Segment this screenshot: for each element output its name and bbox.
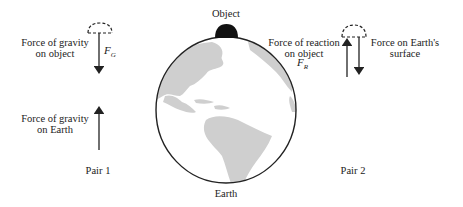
reaction-on-object-line1: Force of reaction xyxy=(268,38,340,49)
gravity-on-object-line2: on object xyxy=(21,49,89,60)
object-label: Object xyxy=(212,9,240,20)
pair2-title: Pair 2 xyxy=(341,166,366,177)
gravity-on-earth-line2: on Earth xyxy=(21,125,89,136)
pair1-title: Pair 1 xyxy=(86,166,111,177)
fg-symbol-subscript: G xyxy=(111,51,116,59)
hispaniola-shape xyxy=(214,105,230,109)
dashed-object-right xyxy=(342,25,366,37)
south-america-shape xyxy=(204,116,272,186)
diagram-canvas xyxy=(0,0,463,207)
cuba-shape xyxy=(194,99,214,103)
fr-symbol: FR xyxy=(297,56,308,71)
central-america-shape xyxy=(163,95,196,112)
gravity-on-earth-label: Force of gravity on Earth xyxy=(21,114,89,135)
gravity-on-object-line1: Force of gravity xyxy=(21,38,89,49)
earth-continents xyxy=(156,42,296,186)
gravity-on-object-label: Force of gravity on object xyxy=(21,38,89,59)
fg-symbol: FG xyxy=(104,44,116,59)
fr-symbol-subscript: R xyxy=(304,63,308,71)
gravity-on-earth-line1: Force of gravity xyxy=(21,114,89,125)
force-on-surface-line2: surface xyxy=(371,49,439,60)
fr-symbol-letter: F xyxy=(297,56,304,68)
dashed-object-left xyxy=(88,23,112,33)
object-dome xyxy=(215,24,238,38)
force-on-surface-label: Force on Earth's surface xyxy=(371,38,439,59)
force-on-surface-line1: Force on Earth's xyxy=(371,38,439,49)
earth-label: Earth xyxy=(215,189,238,200)
fg-symbol-letter: F xyxy=(104,44,111,56)
